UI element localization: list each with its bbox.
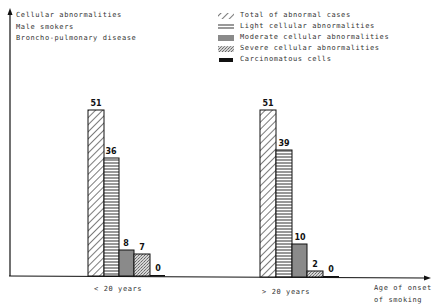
bar-group-gt20 [260, 110, 339, 278]
legend-swatch-total [218, 13, 234, 19]
bar-total-lt20 [88, 110, 104, 276]
bar-carcinomatous-gt20 [323, 276, 339, 278]
bar-light-lt20 [104, 158, 119, 276]
value-label: 36 [101, 147, 121, 156]
chart-title-line-3: Broncho-pulmonary disease [16, 34, 136, 42]
bar-total-gt20 [260, 110, 276, 277]
legend-swatches [218, 13, 234, 62]
x-axis [9, 276, 431, 281]
bar-group-lt20 [88, 110, 165, 277]
value-label: 7 [132, 243, 152, 252]
value-label: 39 [274, 139, 294, 148]
value-label: 0 [148, 264, 168, 273]
value-label: 10 [290, 233, 310, 242]
value-label: 51 [86, 99, 106, 108]
value-label: 0 [321, 265, 341, 274]
legend-label-carcinomatous: Carcinomatous cells [240, 55, 331, 63]
legend-swatch-moderate [218, 35, 234, 41]
legend-swatch-carcinomatous [219, 58, 233, 62]
legend-label-severe: Severe cellular abnormalities [240, 44, 380, 52]
x-axis-label-line-2: of smoking [374, 296, 422, 304]
bar-moderate-lt20 [119, 250, 134, 276]
legend-swatch-severe [218, 46, 234, 52]
bar-carcinomatous-lt20 [150, 275, 165, 277]
bar-light-gt20 [276, 150, 292, 277]
legend-swatch-light [218, 24, 234, 30]
chart-title-line-1: Cellular abnormalities [16, 11, 122, 19]
y-axis [8, 8, 13, 276]
x-axis-label-line-1: Age of onset [374, 284, 432, 292]
chart-title-line-2: Male smokers [16, 23, 74, 31]
legend-label-total: Total of abnormal cases [240, 11, 351, 19]
legend-label-light: Light cellular abnormalities [240, 22, 375, 30]
category-label-gt20: > 20 years [262, 288, 310, 296]
category-label-lt20: < 20 years [94, 285, 142, 293]
value-label: 51 [258, 99, 278, 108]
legend-label-moderate: Moderate cellular abnormalities [240, 33, 389, 41]
